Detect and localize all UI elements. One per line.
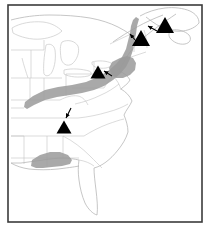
map-canvas [0, 0, 210, 233]
figure-background [0, 0, 210, 233]
distribution-map-figure [0, 0, 210, 233]
